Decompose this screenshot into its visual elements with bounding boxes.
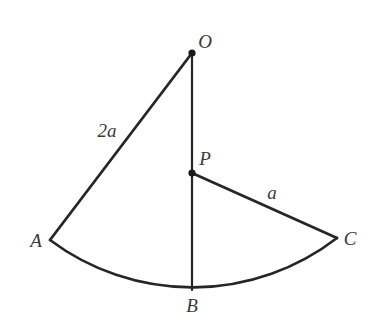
length-label-a: a bbox=[267, 183, 277, 202]
point-label-p: P bbox=[199, 149, 211, 168]
sector-arc-group bbox=[50, 238, 337, 287]
point-label-b: B bbox=[186, 296, 198, 315]
segment-oa bbox=[50, 53, 192, 240]
point-o-dot bbox=[188, 49, 195, 56]
arc-abc bbox=[50, 238, 337, 287]
segment-pc bbox=[192, 173, 337, 238]
point-label-c: C bbox=[344, 229, 357, 248]
point-label-a: A bbox=[30, 231, 42, 250]
geometry-diagram: O P A B C 2a a bbox=[0, 0, 373, 332]
sector-figure-canvas bbox=[0, 0, 373, 332]
point-p-dot bbox=[188, 169, 195, 176]
point-label-o: O bbox=[198, 32, 212, 51]
length-label-2a: 2a bbox=[98, 121, 117, 140]
